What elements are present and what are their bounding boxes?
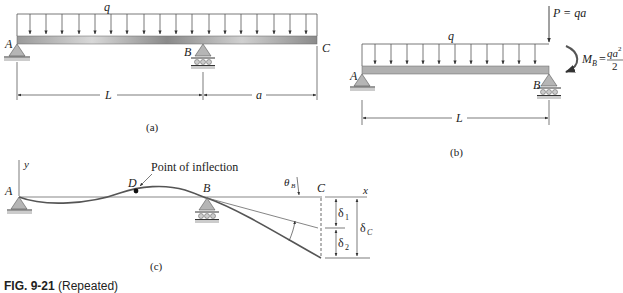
beam-abc (17, 36, 317, 44)
load-label-q: q (104, 0, 110, 14)
caption-a: (a) (146, 121, 159, 134)
svg-text:θ: θ (284, 176, 290, 188)
moment-label: M B = qa 2 2 (581, 45, 623, 72)
moment-arrow-icon (566, 46, 577, 72)
point-label-d: D (127, 176, 137, 190)
inflection-arrow (140, 174, 152, 186)
dimension-lines-a (17, 46, 317, 100)
axis-label-y: y (23, 158, 29, 170)
svg-text:2: 2 (612, 60, 618, 72)
dimension-label-a: a (256, 88, 262, 102)
rotation-arc-icon (289, 221, 295, 241)
roller-support-b-b (537, 74, 561, 99)
point-label-a-b: A (349, 69, 358, 83)
caption-b: (b) (450, 146, 463, 159)
beam-ab (362, 66, 549, 74)
point-label-c: C (322, 41, 331, 55)
deflection-label-d1: δ 1 (338, 206, 349, 222)
svg-text:qa: qa (607, 47, 619, 59)
point-label-a-c: A (4, 184, 13, 198)
dimension-label-l-b: L (455, 111, 463, 125)
caption-c: (c) (150, 260, 163, 273)
svg-text:B: B (592, 59, 597, 68)
distributed-load-q-b: q (362, 29, 549, 66)
point-label-b: B (184, 45, 192, 59)
figure-number: FIG. 9-21 (4, 279, 55, 293)
tangent-line-b (207, 198, 318, 228)
point-label-b-b: B (533, 78, 541, 92)
roller-support-b (191, 44, 215, 69)
svg-text:=: = (599, 52, 606, 66)
svg-text:1: 1 (345, 213, 349, 222)
distributed-load-q: q (17, 0, 317, 36)
figure-caption: FIG. 9-21 (Repeated) (4, 279, 118, 293)
load-label-q-b: q (448, 29, 454, 43)
svg-text:δ: δ (338, 206, 344, 220)
figure-caption-text: (Repeated) (58, 279, 118, 293)
slope-label-theta-b: θ B (284, 176, 296, 190)
point-label-a: A (4, 37, 13, 51)
point-load-label: P = qa (552, 6, 586, 20)
axis-label-x: x (362, 184, 368, 196)
svg-text:C: C (367, 228, 373, 237)
inflection-label: Point of inflection (151, 160, 238, 174)
svg-text:2: 2 (345, 243, 349, 252)
deflection-label-d2: δ 2 (338, 236, 349, 252)
figure-b: q P = qa M B = qa 2 2 (349, 6, 623, 159)
svg-text:2: 2 (618, 45, 622, 53)
svg-text:δ: δ (360, 221, 366, 235)
figure-a: q A B C (4, 0, 331, 134)
point-label-c-c: C (317, 181, 326, 195)
deflection-label-dc: δ C (360, 221, 373, 237)
dimension-label-l: L (104, 88, 112, 102)
svg-text:B: B (291, 182, 296, 190)
point-label-b-c: B (203, 181, 211, 195)
figure-c: y x Point of inflection D (4, 158, 373, 273)
svg-text:δ: δ (338, 236, 344, 250)
